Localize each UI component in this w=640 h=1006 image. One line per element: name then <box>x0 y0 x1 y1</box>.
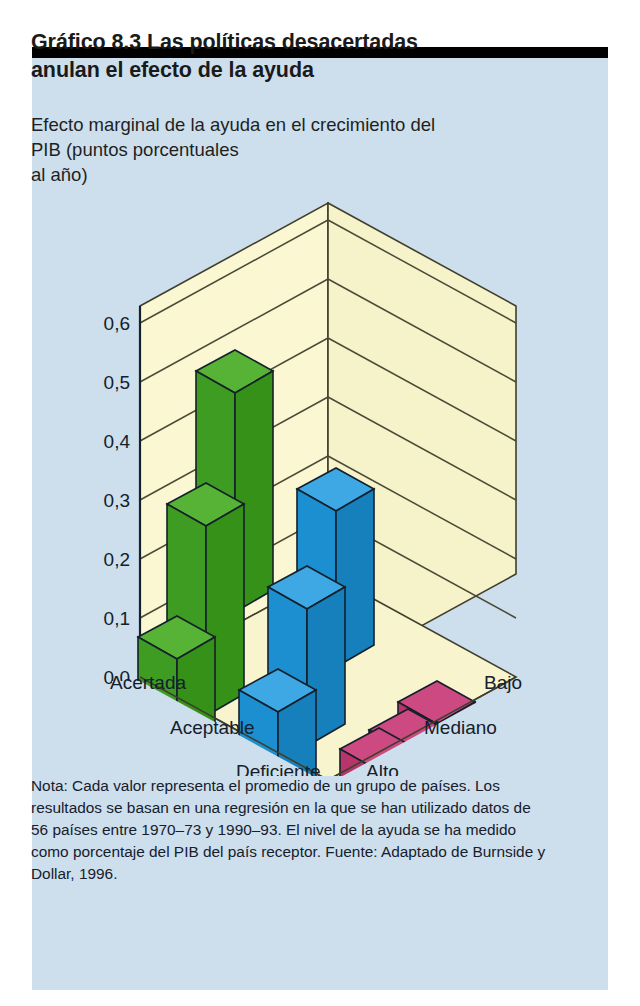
depth-label-bajo: Bajo <box>484 672 522 693</box>
figure-title-line2: anulan el efecto de la ayuda <box>31 56 531 84</box>
chart-y-tick-labels: 0,0 0,1 0,2 0,3 0,4 0,5 0,6 <box>104 313 131 688</box>
bar-chart-3d: 0,0 0,1 0,2 0,3 0,4 0,5 0,6 <box>12 156 572 776</box>
y-tick-5: 0,5 <box>104 372 130 393</box>
cat-label-acertada: Acertada <box>110 672 186 693</box>
depth-label-alto: Alto <box>366 761 399 776</box>
y-tick-2: 0,2 <box>104 549 130 570</box>
cat-label-aceptable: Aceptable <box>170 717 255 738</box>
figure-note: Nota: Cada valor representa el promedio … <box>31 775 546 884</box>
figure-title: Gráfico 8.3 Las políticas desacertadas a… <box>31 28 531 85</box>
y-tick-1: 0,1 <box>104 608 130 629</box>
axis-description-line1: Efecto marginal de la ayuda en el crecim… <box>31 114 435 135</box>
figure-container: Gráfico 8.3 Las políticas desacertadas a… <box>0 0 640 1006</box>
y-tick-6: 0,6 <box>104 313 130 334</box>
cat-label-deficiente: Deficiente <box>236 761 321 776</box>
depth-label-mediano: Mediano <box>424 717 497 738</box>
y-tick-3: 0,3 <box>104 490 130 511</box>
chart-plot-area: 0,0 0,1 0,2 0,3 0,4 0,5 0,6 <box>12 156 572 776</box>
y-tick-4: 0,4 <box>104 431 131 452</box>
figure-title-line1: Gráfico 8.3 Las políticas desacertadas <box>31 30 418 54</box>
